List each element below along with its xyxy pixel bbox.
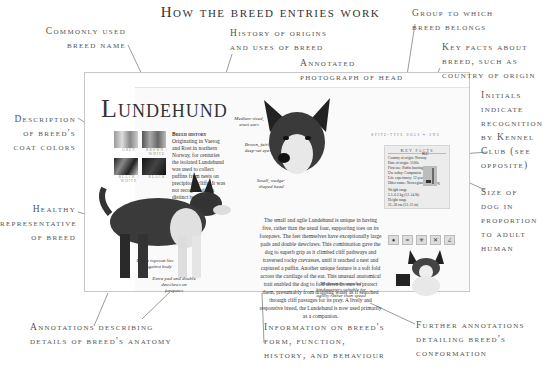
group-line: Spitz-type dogs ▪ 195 <box>371 132 440 137</box>
callout-info: Information on breed's form, function, h… <box>264 320 404 362</box>
callout-coat: Description of breed's coat colors <box>0 112 76 154</box>
callout-key-facts: Key facts about breed, such as country o… <box>442 40 542 82</box>
annotation-hindquarters: Moderately muscled hindquarters suitable… <box>316 281 366 299</box>
grooming-icon: ≡ <box>402 235 413 245</box>
coat-swatch-grey: Grey <box>114 131 144 152</box>
key-facts-box: Key facts Country of origin: Norway Date… <box>384 145 450 209</box>
dogs-icon: ♦ <box>388 235 399 245</box>
attribute-icons: ♦ ≡ ✳ ✕ ∠ <box>388 235 455 245</box>
main-description: The small and agile Lundehund is unique … <box>259 216 382 320</box>
callout-common-name: Commonly used breed name <box>22 24 126 52</box>
exercise-icon: ✕ <box>430 235 441 245</box>
callout-group: Group to which breed belongs <box>412 6 532 34</box>
callout-photo-head: Annotated photograph of head <box>300 56 420 84</box>
annotation-head: Small, wedge-shaped head <box>256 178 286 190</box>
breed-name: Lundehund <box>101 94 228 124</box>
callout-further: Further annotations detailing breed's co… <box>416 318 541 360</box>
callout-history: History of origins and uses of breed <box>230 26 360 54</box>
annotation-forepaws: Extra pad and double dewclaws on forepaw… <box>152 276 196 294</box>
size-comparison <box>423 166 437 186</box>
food-icon: ✳ <box>416 235 427 245</box>
callout-anatomy: Annotations describing details of breed'… <box>30 320 200 348</box>
coat-swatch-brown-white: Brown / White <box>142 131 172 156</box>
kc-initials: KC <box>422 151 429 156</box>
annotation-topcoat: Dense topcoat lies flat against body <box>134 258 176 270</box>
dog-head-icon <box>262 96 332 178</box>
annotation-ears: Medium-sized, erect ears <box>232 116 266 128</box>
sitting-dog-icon <box>396 248 456 296</box>
callout-healthy: Healthy representative of breed <box>0 202 76 244</box>
sitting-dog-photo <box>396 248 456 296</box>
chart-icon: ∠ <box>444 235 455 245</box>
callout-size: Size of dog in proportion to adult human <box>481 185 541 255</box>
human-dog-size-icon <box>423 166 437 186</box>
head-photo <box>262 96 332 178</box>
callout-initials: Initials indicate recognition by Kennel … <box>481 88 541 172</box>
annotation-eyes: Brown, fairly deep-set eyes <box>242 142 274 154</box>
